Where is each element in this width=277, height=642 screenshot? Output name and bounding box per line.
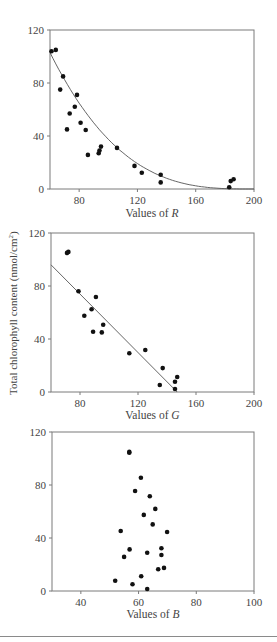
- data-point: [158, 383, 163, 388]
- data-point: [113, 578, 118, 583]
- y-tick-label: 40: [33, 130, 45, 142]
- data-point: [118, 529, 123, 534]
- data-point: [75, 93, 80, 98]
- bottom-separator: [0, 636, 277, 637]
- y-tick-label: 120: [30, 426, 47, 438]
- x-tick-label: 100: [246, 596, 263, 608]
- data-point: [127, 547, 132, 552]
- data-point: [145, 587, 150, 592]
- y-tick-label: 0: [41, 585, 47, 597]
- x-tick-label: 120: [130, 397, 147, 409]
- data-point: [132, 164, 137, 169]
- data-point: [58, 87, 63, 92]
- y-tick-label: 80: [33, 77, 45, 89]
- data-point: [133, 489, 138, 494]
- data-point: [142, 513, 147, 518]
- data-point: [89, 307, 94, 312]
- data-point: [86, 153, 91, 158]
- data-point: [67, 111, 72, 116]
- data-point: [101, 322, 106, 327]
- y-axis-title: Total chlorophyll content (nmol/cm2): [7, 231, 20, 395]
- scatter-plots: 0408012080120160200Values of R 040801208…: [0, 0, 277, 642]
- x-tick-label: 200: [246, 397, 263, 409]
- data-point: [173, 379, 178, 384]
- y-tick-label: 80: [35, 479, 47, 491]
- y-tick-label: 120: [28, 24, 45, 36]
- data-point: [49, 49, 54, 54]
- y-tick-label: 40: [34, 333, 46, 345]
- data-point: [159, 546, 164, 551]
- data-point: [82, 313, 87, 318]
- chart-b-scatter: 04080120406080100Values of B: [30, 426, 263, 620]
- data-point: [173, 387, 178, 392]
- x-tick-label: 160: [187, 194, 204, 206]
- data-point: [91, 329, 96, 334]
- data-point: [153, 507, 158, 512]
- chart-r-scatter: 0408012080120160200Values of R: [28, 24, 263, 219]
- data-point: [78, 121, 83, 126]
- figure: 0408012080120160200Values of R 040801208…: [0, 0, 277, 642]
- x-tick-label: 80: [191, 596, 203, 608]
- data-point: [231, 177, 236, 182]
- data-point: [66, 250, 71, 255]
- data-point: [130, 582, 135, 587]
- data-point: [150, 522, 155, 527]
- plot-frame: [52, 432, 254, 591]
- y-tick-label: 80: [34, 280, 46, 292]
- plot-frame: [51, 233, 254, 392]
- x-tick-label: 200: [246, 194, 263, 206]
- data-point: [100, 330, 105, 335]
- chart-g-scatter: 0408012080120160200Values of G: [29, 227, 263, 421]
- x-axis-title: Values of B: [126, 608, 179, 620]
- data-point: [83, 128, 88, 133]
- data-point: [76, 289, 81, 294]
- data-point: [65, 127, 70, 132]
- x-axis-title: Values of G: [125, 409, 180, 421]
- data-point: [227, 185, 232, 190]
- y-tick-label: 120: [29, 227, 46, 239]
- x-tick-label: 80: [74, 194, 86, 206]
- data-point: [122, 555, 127, 560]
- data-point: [159, 553, 164, 558]
- y-tick-label: 0: [39, 183, 45, 195]
- x-tick-label: 40: [75, 596, 87, 608]
- data-point: [162, 566, 167, 571]
- data-point: [139, 574, 144, 579]
- data-point: [160, 366, 165, 371]
- data-point: [143, 348, 148, 353]
- data-point: [175, 375, 180, 380]
- data-point: [127, 351, 132, 356]
- data-point: [140, 170, 145, 175]
- x-tick-label: 60: [133, 596, 145, 608]
- x-axis-title: Values of R: [125, 207, 178, 219]
- x-tick-label: 160: [188, 397, 205, 409]
- data-point: [73, 105, 78, 110]
- y-tick-label: 40: [35, 532, 47, 544]
- regression-line: [51, 265, 177, 392]
- plot-frame: [50, 30, 254, 189]
- data-point: [99, 144, 104, 149]
- data-point: [61, 74, 66, 79]
- data-point: [156, 567, 161, 572]
- data-point: [97, 148, 102, 153]
- y-tick-label: 0: [40, 386, 46, 398]
- data-point: [158, 172, 163, 177]
- data-point: [139, 475, 144, 480]
- data-point: [158, 180, 163, 185]
- data-point: [165, 530, 170, 535]
- data-point: [54, 48, 59, 53]
- data-point: [148, 494, 153, 499]
- data-point: [127, 450, 132, 455]
- x-tick-label: 120: [129, 194, 146, 206]
- data-point: [145, 550, 150, 555]
- data-point: [115, 146, 120, 151]
- data-point: [94, 295, 99, 300]
- x-tick-label: 80: [75, 397, 87, 409]
